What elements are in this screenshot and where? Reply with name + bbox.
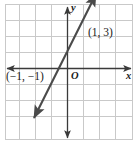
point-label-one-three: (1, 3) [88, 27, 113, 39]
origin-label: O [71, 71, 79, 82]
x-axis-label: x [126, 71, 131, 82]
point-label-negative-one-negative-one: (−1, −1) [6, 71, 44, 83]
coordinate-plane-figure: (−1, −1) (1, 3) O x y [0, 0, 140, 147]
line-segment-lower [34, 52, 67, 118]
y-axis-label: y [71, 3, 76, 14]
